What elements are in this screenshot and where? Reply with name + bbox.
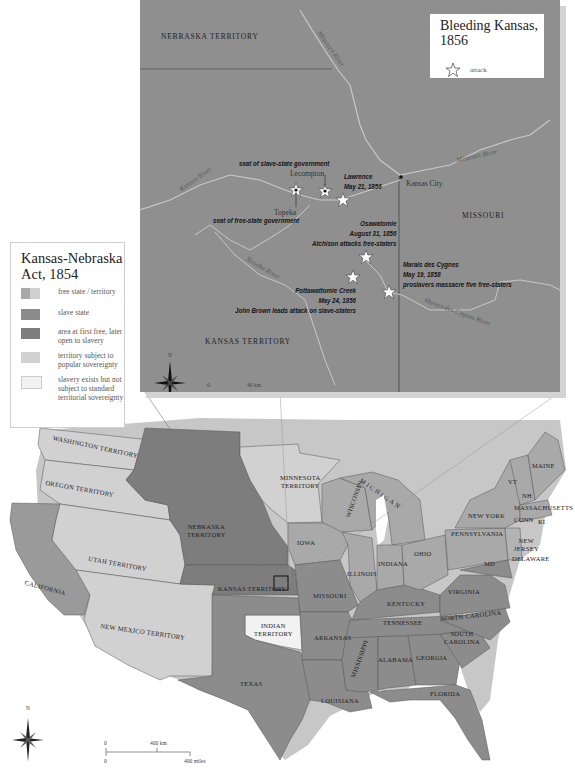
inset-label-nebraska: NEBRASKA TERRITORY	[161, 32, 259, 41]
label-louisiana: LOUISIANA	[321, 697, 359, 705]
scale-main-miles: 400 miles	[184, 758, 206, 764]
scale-main-zero-mi: 0	[104, 758, 107, 764]
label-new-hampshire: NH	[522, 492, 532, 500]
label-new-jersey: NEWJERSEY	[514, 537, 539, 553]
scale-inset-km: 40 km	[247, 382, 261, 388]
label-virginia: VIRGINIA	[448, 588, 480, 596]
legend-swatch-slave	[21, 309, 40, 320]
label-vermont: VT	[508, 478, 517, 486]
label-indian-territory: INDIANTERRITORY	[254, 622, 293, 638]
city-dot-topeka	[294, 188, 297, 191]
legend-swatch-popular-sovereignty	[21, 352, 40, 363]
scale-bar-main	[106, 748, 190, 756]
label-alabama: ALABAMA	[378, 656, 413, 664]
scale-main-km: 400 km	[150, 740, 167, 746]
label-maryland: MD	[484, 560, 495, 568]
inset-label-kansas: KANSAS TERRITORY	[205, 337, 291, 346]
inset-legend-title: Bleeding Kansas,1856	[440, 18, 538, 48]
region-new-mexico-territory	[76, 570, 215, 680]
legend-swatch-free	[21, 288, 40, 299]
inset-label-missouri: MISSOURI	[462, 211, 504, 220]
compass-main-n: N	[26, 705, 30, 711]
label-illinois: ILLINOIS	[347, 570, 377, 578]
label-new-york: NEW YORK	[468, 512, 505, 520]
label-tennessee: TENNESSEE	[383, 619, 422, 627]
label-pennsylvania: PENNSYLVANIA	[451, 530, 503, 538]
label-maine: MAINE	[532, 462, 555, 470]
legend-title: Kansas-NebraskaAct, 1854	[21, 250, 122, 282]
inset-bleeding-kansas-map: NEBRASKA TERRITORY KANSAS TERRITORY MISS…	[140, 0, 560, 392]
compass-rose-main	[12, 718, 44, 762]
event-label-free-gov: seat of free-state government	[213, 216, 299, 226]
label-south-carolina: SOUTHCAROLINA	[444, 630, 480, 646]
inset-legend-bleeding-kansas: Bleeding Kansas,1856 attack	[430, 14, 544, 78]
label-florida: FLORIDA	[430, 690, 460, 698]
label-missouri: MISSOURI	[313, 592, 346, 600]
city-label-lecompton: Lecompton	[290, 169, 324, 178]
event-label-pottawattomie: Pottawattomie CreekMay 24, 1856John Brow…	[235, 286, 356, 316]
city-dot-kansas-city	[399, 175, 403, 179]
event-label-slave-gov: seat of slave-state government	[239, 159, 329, 169]
legend-kansas-nebraska: Kansas-NebraskaAct, 1854 free state / te…	[10, 242, 125, 428]
label-arkansas: ARKANSAS	[314, 634, 351, 642]
compass-rose-inset	[154, 361, 186, 392]
city-label-kansas-city: Kansas City	[406, 179, 442, 188]
label-nebraska: NEBRASKATERRITORY	[187, 523, 226, 539]
label-minnesota: MINNESOTATERRITORY	[280, 474, 320, 490]
label-connecticut: CONN	[514, 516, 534, 524]
scale-inset-zero-km: 0	[207, 382, 210, 388]
inset-legend-attack-label: attack	[470, 66, 487, 74]
legend-swatch-slavery-not-subject	[21, 376, 42, 389]
attack-star-icon	[443, 62, 463, 78]
label-rhode-island: RI	[538, 518, 545, 526]
label-kentucky: KENTUCKY	[387, 600, 425, 608]
scale-main-zero-km: 0	[104, 740, 107, 746]
event-label-lawrence: LawrenceMay 21, 1856	[344, 172, 382, 192]
legend-swatch-free-then-slavery	[21, 328, 40, 339]
event-label-osawatomie: OsawatomieAugust 31, 1856Atchison attack…	[312, 219, 396, 249]
label-ohio: OHIO	[414, 550, 431, 558]
event-label-marais: Marais des CygnesMay 19, 1858proslavers …	[403, 260, 512, 290]
label-indiana: INDIANA	[378, 560, 408, 568]
label-massachusetts: MASSACHUSETTS	[514, 504, 573, 512]
label-iowa: IOWA	[297, 539, 315, 547]
compass-inset-n: N	[168, 352, 172, 358]
label-delaware: DELAWARE	[512, 555, 550, 563]
label-texas: TEXAS	[240, 680, 262, 688]
city-dot-lecompton	[323, 189, 326, 192]
label-georgia: GEORGIA	[416, 654, 447, 662]
label-kansas: KANSAS TERRITORY	[218, 585, 286, 593]
